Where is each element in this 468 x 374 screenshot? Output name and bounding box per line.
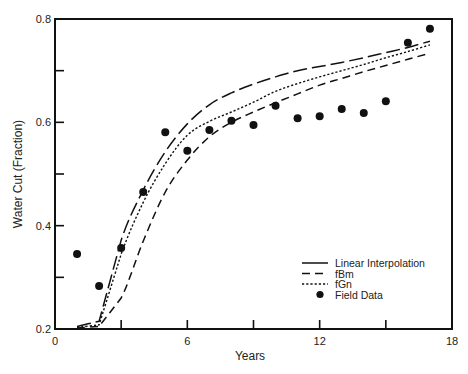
y-tick-label: 0.2 [36,323,51,335]
x-tick-label: 0 [52,335,58,347]
x-tick-label: 6 [184,335,190,347]
field-data-points [73,25,434,290]
field-data-point [272,102,280,110]
field-data-point [73,250,81,258]
y-tick-label: 0.8 [36,13,51,25]
chart: 061218 0.20.40.60.8 Years Water Cut (Fra… [0,0,468,374]
field-data-point [117,244,125,252]
y-axis-title: Water Cut (Fraction) [11,120,25,228]
fgn-line [77,45,430,328]
y-tick-label: 0.4 [36,220,51,232]
field-data-point [338,105,346,113]
y-axis-ticks: 0.20.40.60.8 [36,13,64,335]
legend-label: Field Data [335,289,383,301]
field-data-point [95,282,103,290]
legend-marker-circle [316,291,323,298]
field-data-point [183,147,191,155]
field-data-point [426,25,434,33]
field-data-point [205,126,213,134]
x-axis-ticks: 061218 [52,320,458,347]
field-data-point [139,188,147,196]
legend: Linear InterpolationfBmfGnField Data [302,257,425,301]
plot-frame [55,19,452,329]
field-data-point [382,97,390,105]
field-data-point [316,112,324,120]
x-tick-label: 18 [446,335,458,347]
y-tick-label: 0.6 [36,116,51,128]
field-data-point [294,114,302,122]
field-data-point [161,128,169,136]
field-data-point [360,109,368,117]
field-data-point [404,39,412,47]
linear-interpolation-line [77,41,430,326]
field-data-point [227,117,235,125]
x-tick-label: 12 [314,335,326,347]
x-axis-title: Years [235,349,265,363]
fbm-line [77,53,430,328]
plot-lines [77,41,430,328]
field-data-point [250,121,258,129]
